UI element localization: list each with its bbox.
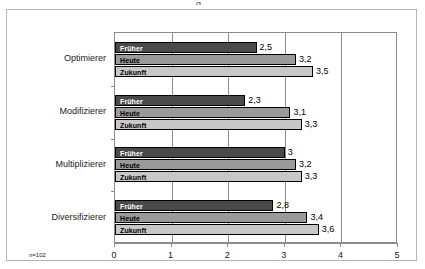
category-label-modifizierer: Modifizierer: [59, 106, 106, 116]
series-label-früher: Früher: [120, 43, 143, 54]
bar-row: Früher2,3: [115, 95, 398, 106]
bar-row: Heute3,2: [115, 54, 398, 65]
bar-value-label: 3,6: [322, 223, 335, 235]
bar-value-label: 2,3: [248, 94, 261, 106]
bar-modifizierer-früher: Früher: [115, 95, 245, 106]
x-tick-label-5: 5: [382, 250, 412, 260]
series-label-zukunft: Zukunft: [120, 225, 146, 236]
bar-value-label: 3,3: [305, 170, 318, 182]
bar-value-label: 2,5: [260, 41, 273, 53]
bar-row: Zukunft3,3: [115, 171, 398, 182]
bar-row: Zukunft3,5: [115, 66, 398, 77]
x-tick-label-0: 0: [99, 250, 129, 260]
x-tick-5: [397, 243, 398, 247]
bar-optimierer-heute: Heute: [115, 54, 296, 65]
bar-row: Zukunft3,3: [115, 119, 398, 130]
chart-screenshot: g Früher2,5Heute3,2Zukunft3,5Früher2,3He…: [0, 0, 425, 269]
series-label-zukunft: Zukunft: [120, 120, 146, 131]
x-tick-2: [227, 243, 228, 247]
x-tick-label-2: 2: [212, 250, 242, 260]
series-label-heute: Heute: [120, 108, 140, 119]
bar-row: Früher3: [115, 147, 398, 158]
series-label-früher: Früher: [120, 148, 143, 159]
sample-size-note: n=102: [29, 251, 46, 259]
x-tick-1: [171, 243, 172, 247]
plot-area: Früher2,5Heute3,2Zukunft3,5Früher2,3Heut…: [114, 32, 397, 243]
category-tick: [111, 86, 115, 87]
bar-modifizierer-heute: Heute: [115, 107, 290, 118]
category-tick: [111, 191, 115, 192]
bar-value-label: 3: [288, 146, 293, 158]
x-tick-label-3: 3: [269, 250, 299, 260]
x-tick-3: [284, 243, 285, 247]
x-tick-label-1: 1: [156, 250, 186, 260]
bar-value-label: 3,3: [305, 118, 318, 130]
series-label-heute: Heute: [120, 213, 140, 224]
bar-row: Heute3,1: [115, 107, 398, 118]
x-tick-label-4: 4: [325, 250, 355, 260]
category-label-diversifizierer: Diversifizierer: [51, 212, 106, 222]
bar-row: Früher2,8: [115, 200, 398, 211]
bar-value-label: 3,4: [310, 211, 323, 223]
bar-diversifizierer-zukunft: Zukunft: [115, 224, 319, 235]
series-label-früher: Früher: [120, 201, 143, 212]
cropped-title-remnant: g: [196, 0, 206, 5]
series-label-heute: Heute: [120, 160, 140, 171]
category-label-optimierer: Optimierer: [64, 53, 106, 63]
x-tick-0: [114, 243, 115, 247]
category-tick: [111, 139, 115, 140]
bar-row: Zukunft3,6: [115, 224, 398, 235]
series-label-früher: Früher: [120, 96, 143, 107]
bar-value-label: 3,2: [299, 158, 312, 170]
series-label-heute: Heute: [120, 55, 140, 66]
bar-row: Früher2,5: [115, 42, 398, 53]
x-tick-4: [340, 243, 341, 247]
bar-value-label: 3,2: [299, 53, 312, 65]
bar-optimierer-früher: Früher: [115, 42, 257, 53]
category-label-multiplizierer: Multiplizierer: [55, 159, 106, 169]
x-axis-line: [114, 243, 397, 244]
bar-value-label: 3,5: [316, 65, 329, 77]
bar-value-label: 3,1: [293, 106, 306, 118]
bar-diversifizierer-heute: Heute: [115, 212, 307, 223]
series-label-zukunft: Zukunft: [120, 67, 146, 78]
figure-frame: Früher2,5Heute3,2Zukunft3,5Früher2,3Heut…: [6, 9, 417, 261]
bar-diversifizierer-früher: Früher: [115, 200, 273, 211]
bar-multiplizierer-zukunft: Zukunft: [115, 171, 302, 182]
bar-value-label: 2,8: [276, 199, 289, 211]
bar-modifizierer-zukunft: Zukunft: [115, 119, 302, 130]
bar-row: Heute3,2: [115, 159, 398, 170]
bar-optimierer-zukunft: Zukunft: [115, 66, 313, 77]
series-label-zukunft: Zukunft: [120, 172, 146, 183]
bar-multiplizierer-heute: Heute: [115, 159, 296, 170]
bar-row: Heute3,4: [115, 212, 398, 223]
bar-multiplizierer-früher: Früher: [115, 147, 285, 158]
